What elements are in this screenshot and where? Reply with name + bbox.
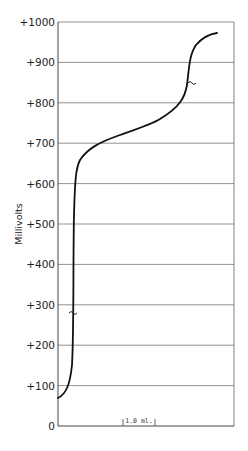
y-tick-label: +100 bbox=[26, 380, 55, 392]
gridlines bbox=[58, 22, 234, 386]
y-tick-label: +700 bbox=[26, 137, 55, 149]
squiggle-marker-upper bbox=[188, 82, 196, 85]
y-tick-label: +800 bbox=[26, 97, 55, 109]
y-tick-label: +600 bbox=[26, 178, 55, 190]
y-tick-label: +500 bbox=[26, 218, 55, 230]
titration-chart: 0+100+200+300+400+500+600+700+800+900+10… bbox=[0, 0, 248, 451]
scale-bar-label: 1.0 ml. bbox=[125, 417, 152, 425]
y-tick-labels: 0+100+200+300+400+500+600+700+800+900+10… bbox=[19, 16, 55, 432]
y-tick-label: +200 bbox=[26, 339, 55, 351]
y-tick-label: +400 bbox=[26, 258, 55, 270]
scale-bar: 1.0 ml. bbox=[123, 417, 155, 426]
y-tick-label: +900 bbox=[26, 56, 55, 68]
y-tick-label: +300 bbox=[26, 299, 55, 311]
y-axis-label: Millivolts bbox=[13, 203, 24, 245]
y-tick-label: 0 bbox=[48, 420, 55, 432]
y-tick-label: +1000 bbox=[19, 16, 55, 28]
titration-curve bbox=[58, 33, 217, 398]
